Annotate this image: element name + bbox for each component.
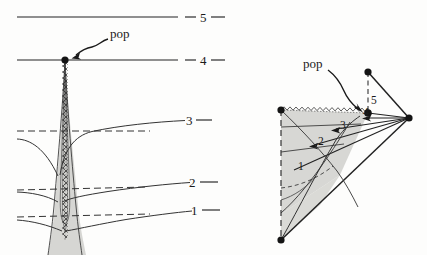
level-3-label: 3 bbox=[186, 113, 193, 128]
right-pop-label: pop bbox=[303, 56, 323, 71]
level-5-label: 5 bbox=[200, 10, 207, 25]
wedge-apex-point bbox=[364, 68, 371, 75]
figure-container: 5 4 3 2 1 bbox=[0, 0, 427, 255]
level-1-label: 1 bbox=[191, 203, 198, 218]
wedge-left-bottom-point bbox=[277, 236, 284, 243]
fan-label-2: 2 bbox=[318, 135, 324, 147]
fan-label-4: 4 bbox=[363, 106, 369, 118]
fan-label-1: 1 bbox=[298, 160, 304, 172]
wedge-right-vertex-point bbox=[405, 114, 412, 121]
level-2-label: 2 bbox=[189, 175, 196, 190]
left-pop-point bbox=[61, 56, 68, 63]
fan-label-3: 3 bbox=[340, 119, 346, 131]
figure-illustration: 5 4 3 2 1 bbox=[0, 0, 427, 255]
wedge-left-top-point bbox=[277, 106, 284, 113]
fan-label-5: 5 bbox=[371, 94, 377, 106]
left-pop-label: pop bbox=[110, 26, 130, 41]
level-4-label: 4 bbox=[200, 53, 207, 68]
